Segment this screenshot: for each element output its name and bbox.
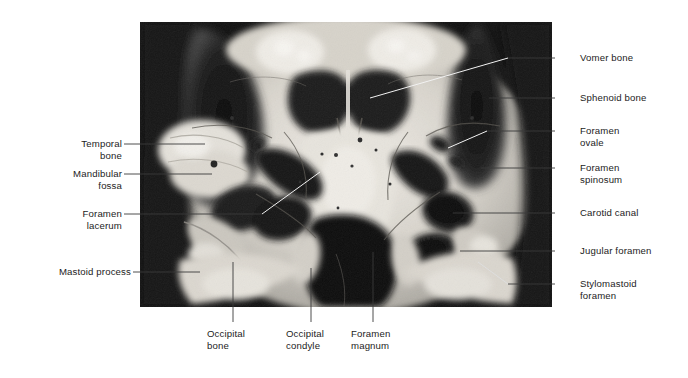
label-foramen-spinosum: Foramen spinosum: [580, 162, 622, 185]
label-carotid-canal: Carotid canal: [580, 207, 638, 219]
label-foramen-magnum: Foramen magnum: [351, 328, 390, 351]
label-occipital-condyle: Occipital condyle: [286, 328, 324, 351]
label-jugular-foramen: Jugular foramen: [580, 245, 652, 257]
label-foramen-lacerum: Foramen lacerum: [0, 208, 122, 231]
label-sphenoid-bone: Sphenoid bone: [580, 92, 647, 104]
label-stylomastoid-foramen: Stylomastoid foramen: [580, 278, 637, 301]
label-mastoid-process: Mastoid process: [0, 266, 131, 278]
anatomy-figure: Temporal bone Mandibular fossa Foramen l…: [0, 0, 688, 378]
label-vomer-bone: Vomer bone: [580, 52, 633, 64]
label-mandibular-fossa: Mandibular fossa: [0, 168, 122, 191]
label-temporal-bone: Temporal bone: [0, 138, 122, 161]
skull-base-photograph: [140, 22, 552, 307]
label-occipital-bone: Occipital bone: [207, 328, 245, 351]
skull-photo-render: [140, 22, 552, 307]
label-foramen-ovale: Foramen ovale: [580, 125, 619, 148]
